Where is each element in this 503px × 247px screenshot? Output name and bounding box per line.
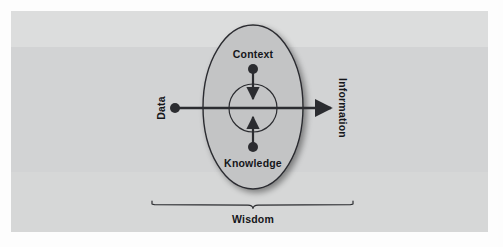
wisdom-brace	[152, 201, 353, 209]
context-label: Context	[233, 49, 273, 60]
information-label: Information	[338, 78, 349, 138]
data-node-dot	[170, 103, 180, 113]
wisdom-label: Wisdom	[232, 214, 274, 225]
knowledge-node-dot	[248, 142, 258, 152]
diagram-canvas: Context Knowledge Data Information Wisdo…	[0, 0, 503, 247]
data-label: Data	[156, 96, 167, 120]
dikw-diagram-graphics	[0, 0, 503, 247]
knowledge-label: Knowledge	[224, 158, 282, 169]
context-node-dot	[248, 64, 258, 74]
